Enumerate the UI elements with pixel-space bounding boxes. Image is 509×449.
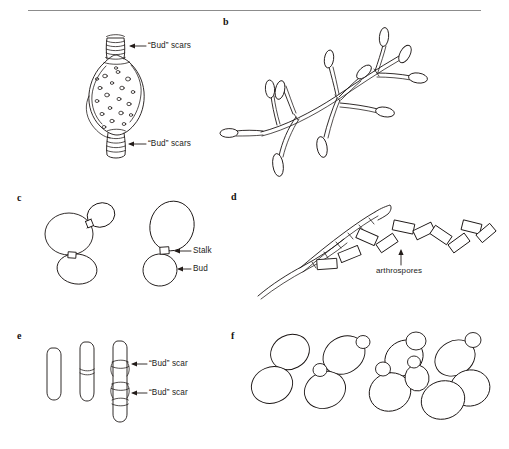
panel-a-leader-bottom <box>128 141 146 146</box>
label-bud-scar-upper: “Bud” scar <box>149 359 188 368</box>
panel-c-drawing <box>45 196 199 287</box>
panel-e-leader-top <box>131 361 147 366</box>
label-bud-scar-lower: “Bud” scar <box>149 388 188 397</box>
panel-e-drawing <box>47 341 147 422</box>
panel-d-leader-arthrospores <box>398 249 403 265</box>
panel-letter-b: b <box>223 16 229 27</box>
panel-letter-d: d <box>231 191 237 202</box>
label-bud: Bud <box>193 264 208 273</box>
panel-b-blastoconidia <box>220 27 428 177</box>
arthrospore-chain <box>317 220 496 270</box>
panel-d-drawing <box>258 205 496 299</box>
panel-b-drawing <box>220 27 428 177</box>
panel-a-leader-top <box>129 43 146 48</box>
panel-letter-e: e <box>17 330 22 341</box>
panel-letter-c: c <box>17 192 22 203</box>
label-stalk: Stalk <box>193 246 212 255</box>
panel-f-drawing <box>246 328 494 425</box>
figure-plate: .ln{fill:none;stroke:#1a1413;stroke-widt… <box>0 0 509 449</box>
label-bud-scars-bottom: “Bud” scars <box>148 139 191 148</box>
label-arthrospores: arthrospores <box>376 266 422 275</box>
figure-linework: .ln{fill:none;stroke:#1a1413;stroke-widt… <box>0 0 509 449</box>
panel-a-drawing <box>86 35 146 158</box>
panel-letter-f: f <box>231 330 235 341</box>
label-bud-scars-top: “Bud” scars <box>148 41 191 50</box>
panel-e-leader-bottom <box>131 390 147 395</box>
panel-c-leader-bud <box>177 266 191 271</box>
